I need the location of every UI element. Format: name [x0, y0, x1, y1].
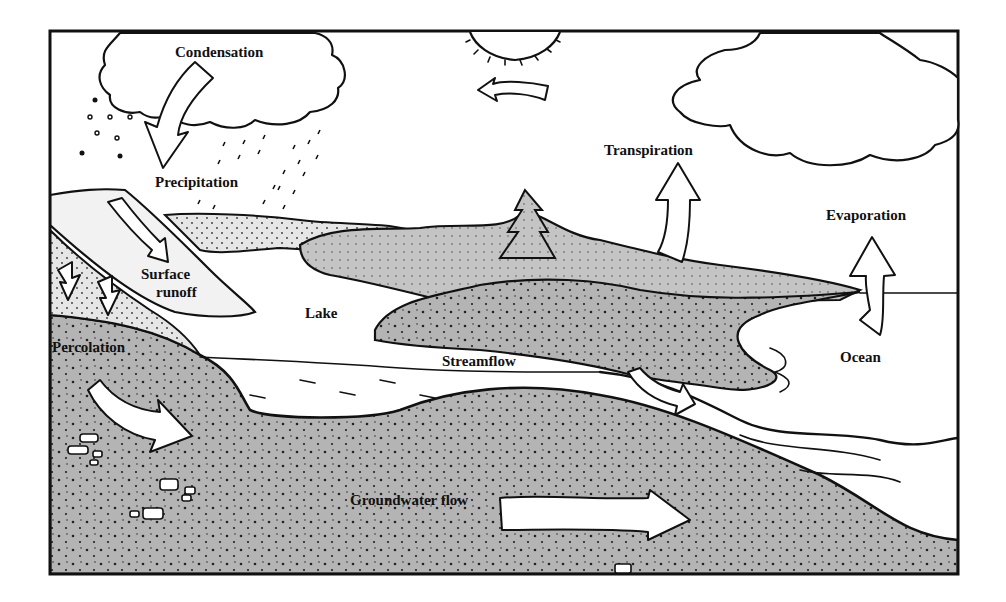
evaporation-arrow [850, 237, 895, 335]
label-surface-runoff-2: runoff [156, 284, 198, 300]
label-transpiration: Transpiration [604, 142, 694, 158]
cloud-right [673, 33, 958, 165]
label-ocean: Ocean [840, 349, 881, 365]
lake-water-line [200, 357, 600, 372]
label-precipitation: Precipitation [155, 174, 239, 190]
label-percolation: Percolation [52, 339, 126, 355]
sun-energy-arrow [478, 78, 548, 101]
label-surface-runoff-1: Surface [141, 266, 190, 282]
transpiration-arrow [656, 163, 700, 262]
sun-icon [470, 32, 560, 60]
label-evaporation: Evaporation [826, 207, 907, 223]
label-streamflow: Streamflow [442, 353, 516, 369]
label-lake: Lake [305, 305, 338, 321]
label-groundwater-flow: Groundwater flow [350, 492, 468, 508]
water-cycle-diagram: Condensation Precipitation Transpiration… [0, 0, 1006, 602]
coast-waves [770, 348, 789, 392]
label-condensation: Condensation [175, 44, 264, 60]
